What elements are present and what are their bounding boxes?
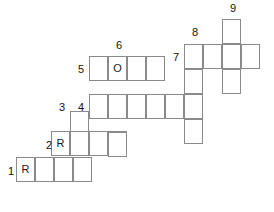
clue-number-9: 9 [226, 3, 240, 14]
clue-number-7: 7 [169, 52, 183, 63]
cell-r2c6[interactable] [127, 56, 146, 81]
clue-number-8: 8 [188, 27, 202, 38]
cell-r5c2[interactable] [54, 157, 73, 182]
clue-number-6: 6 [112, 40, 126, 51]
cell-r3c9[interactable] [184, 94, 203, 119]
cell-r2c9[interactable] [184, 69, 203, 94]
cell-r4c9[interactable] [184, 119, 203, 144]
cell-r3c5[interactable] [108, 94, 127, 119]
cell-r1c12[interactable] [241, 44, 260, 69]
cell-r3c6[interactable] [127, 94, 146, 119]
cell-r5c1[interactable] [35, 157, 54, 182]
cell-r5c3[interactable] [73, 157, 92, 182]
cell-r5c0[interactable]: R [16, 157, 35, 182]
cell-r2c7[interactable] [146, 56, 165, 81]
crossword-grid: ORR123456789 [0, 0, 274, 212]
clue-number-5: 5 [74, 64, 88, 75]
clue-number-2: 2 [42, 140, 56, 151]
cell-r1c10[interactable] [203, 44, 222, 69]
cell-r2c4[interactable] [89, 56, 108, 81]
cell-r4c3[interactable] [70, 131, 89, 156]
clue-number-3: 3 [55, 102, 69, 113]
cell-r2c5[interactable]: O [108, 56, 127, 81]
clue-number-4: 4 [74, 102, 88, 113]
cell-r3c7[interactable] [146, 94, 165, 119]
clue-number-1: 1 [4, 166, 18, 177]
cell-r5c5b[interactable] [108, 132, 127, 157]
cell-r2c11[interactable] [222, 69, 241, 94]
cell-r4c4[interactable] [89, 131, 108, 156]
cell-r3c8[interactable] [165, 94, 184, 119]
cell-r3c4[interactable] [89, 94, 108, 119]
cell-r1c9[interactable] [184, 44, 203, 69]
cell-r0c11[interactable] [222, 19, 241, 44]
cell-r1c11[interactable] [222, 44, 241, 69]
